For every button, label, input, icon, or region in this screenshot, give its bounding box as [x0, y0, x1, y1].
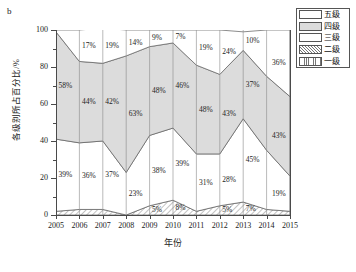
data-label: 36% — [82, 172, 96, 180]
x-tick — [243, 215, 244, 219]
data-label: 37% — [246, 81, 260, 89]
data-label: 46% — [176, 82, 190, 90]
legend-label: 一级 — [324, 57, 340, 66]
data-label: 48% — [152, 87, 166, 95]
data-label: 31% — [199, 179, 213, 187]
data-label: 42% — [105, 98, 119, 106]
legend-label: 三级 — [324, 33, 340, 42]
data-label: 19% — [105, 42, 119, 50]
x-tick — [196, 215, 197, 219]
x-tick — [220, 215, 221, 219]
y-tick-label: 40 — [22, 137, 48, 145]
y-tick-minor — [53, 197, 56, 198]
data-label: 45% — [246, 156, 260, 164]
data-label: 7% — [176, 33, 186, 41]
y-axis-line — [56, 30, 57, 216]
x-tick-label: 2015 — [275, 221, 305, 230]
data-label: 28% — [222, 176, 236, 184]
data-label: 43% — [272, 132, 286, 140]
data-label: 5% — [222, 206, 232, 214]
data-label: 14% — [129, 39, 143, 47]
data-label: 48% — [199, 106, 213, 114]
data-label: 5% — [152, 206, 162, 214]
y-tick-label: 20 — [22, 174, 48, 182]
data-label: 24% — [222, 48, 236, 56]
data-label: 23% — [129, 190, 143, 198]
legend-swatch-icon — [299, 10, 322, 19]
legend-item-2[interactable]: 三级 — [297, 32, 349, 44]
legend-item-0[interactable]: 五级 — [297, 9, 349, 21]
legend-item-1[interactable]: 四级 — [297, 21, 349, 33]
stacked-area-chart: b 17%19%14%9%7%19%24%10%36%58%44%42%63%4… — [0, 0, 356, 272]
x-tick — [126, 215, 127, 219]
y-tick-label: 80 — [22, 63, 48, 71]
y-axis-right-line — [290, 30, 291, 216]
x-axis-title: 年份 — [56, 236, 290, 249]
legend-swatch-icon — [299, 57, 322, 66]
data-label: 38% — [152, 167, 166, 175]
data-label: 43% — [222, 110, 236, 118]
data-label: 39% — [59, 171, 73, 179]
x-tick — [103, 215, 104, 219]
legend-swatch-icon — [299, 33, 322, 42]
x-tick — [267, 215, 268, 219]
y-tick — [51, 30, 56, 31]
y-tick — [51, 67, 56, 68]
y-axis-title: 各级别所占百分比/% — [9, 25, 21, 175]
data-label: 37% — [105, 171, 119, 179]
plot-area: 17%19%14%9%7%19%24%10%36%58%44%42%63%48%… — [56, 30, 290, 215]
data-label: 8% — [176, 204, 186, 212]
y-tick-label: 0 — [22, 211, 48, 219]
panel-letter: b — [7, 6, 12, 16]
y-tick-minor — [53, 123, 56, 124]
y-tick — [51, 178, 56, 179]
data-label: 19% — [199, 44, 213, 52]
y-tick-minor — [53, 160, 56, 161]
y-tick-minor — [53, 86, 56, 87]
legend: 五级四级三级二级一级 — [296, 8, 350, 68]
legend-swatch-icon — [299, 22, 322, 31]
legend-label: 四级 — [324, 22, 340, 31]
x-tick — [56, 215, 57, 219]
x-tick — [290, 215, 291, 219]
legend-swatch-icon — [299, 45, 322, 54]
legend-label: 二级 — [324, 45, 340, 54]
y-tick — [51, 104, 56, 105]
data-label: 36% — [272, 59, 286, 67]
x-tick — [173, 215, 174, 219]
y-tick — [51, 141, 56, 142]
x-tick — [79, 215, 80, 219]
plot-svg — [56, 30, 290, 215]
data-label: 9% — [152, 34, 162, 42]
y-tick-label: 100 — [22, 26, 48, 34]
legend-label: 五级 — [324, 10, 340, 19]
data-label: 63% — [129, 110, 143, 118]
y-tick-label: 60 — [22, 100, 48, 108]
data-label: 19% — [272, 190, 286, 198]
data-label: 10% — [246, 37, 260, 45]
legend-item-3[interactable]: 二级 — [297, 44, 349, 56]
data-label: 17% — [82, 42, 96, 50]
data-label: 44% — [82, 98, 96, 106]
data-label: 39% — [176, 160, 190, 168]
legend-item-4[interactable]: 一级 — [297, 55, 349, 67]
x-tick — [150, 215, 151, 219]
data-label: 7% — [246, 205, 256, 213]
data-label: 58% — [59, 82, 73, 90]
y-tick-minor — [53, 49, 56, 50]
